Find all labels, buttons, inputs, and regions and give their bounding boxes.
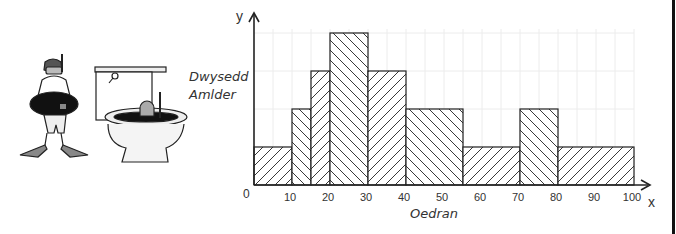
histogram-bar bbox=[254, 147, 292, 185]
x-tick-label: 20 bbox=[322, 191, 334, 203]
x-tick-label: 30 bbox=[360, 191, 372, 203]
y-axis-symbol: y bbox=[236, 8, 243, 24]
x-axis-ticks: 102030405060708090100 bbox=[284, 191, 641, 203]
x-tick-label: 70 bbox=[512, 191, 524, 203]
x-tick-label: 60 bbox=[474, 191, 486, 203]
x-tick-label: 80 bbox=[550, 191, 562, 203]
x-tick-label: 50 bbox=[436, 191, 448, 203]
histogram-chart: yx0Oedran 102030405060708090100 bbox=[0, 0, 676, 234]
x-tick-label: 10 bbox=[284, 191, 296, 203]
histogram-bar bbox=[406, 109, 463, 185]
origin-label: 0 bbox=[243, 187, 250, 201]
histogram-bar bbox=[520, 109, 558, 185]
histogram-bar bbox=[292, 109, 311, 185]
histogram-bar bbox=[311, 71, 330, 185]
x-tick-label: 90 bbox=[588, 191, 600, 203]
image-right-border bbox=[672, 0, 675, 234]
x-tick-label: 40 bbox=[398, 191, 410, 203]
histogram-bar bbox=[368, 71, 406, 185]
x-axis-label: Oedran bbox=[410, 206, 458, 221]
histogram-bar bbox=[463, 147, 520, 185]
histogram-bar bbox=[330, 33, 368, 185]
histogram-bar bbox=[558, 147, 634, 185]
x-tick-label: 100 bbox=[623, 191, 641, 203]
x-axis-symbol: x bbox=[648, 194, 655, 210]
